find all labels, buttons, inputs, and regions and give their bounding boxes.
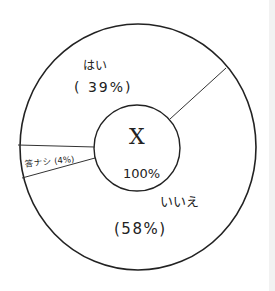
slice-value-yes: ( 39%): [74, 79, 133, 95]
divider-yes-no: [170, 68, 226, 119]
donut-chart: はい ( 39%) 答ナシ (4%) X 100% いいえ (58%): [0, 0, 275, 291]
slice-label-yes: はい: [83, 59, 107, 73]
center-total: 100%: [123, 166, 160, 181]
center-label: X: [129, 124, 145, 149]
divider-yes-na: [18, 145, 95, 147]
slice-label-no: いいえ: [160, 194, 199, 209]
slice-label-na: 答ナシ (4%): [24, 154, 75, 169]
slice-value-no: (58%): [114, 220, 167, 238]
